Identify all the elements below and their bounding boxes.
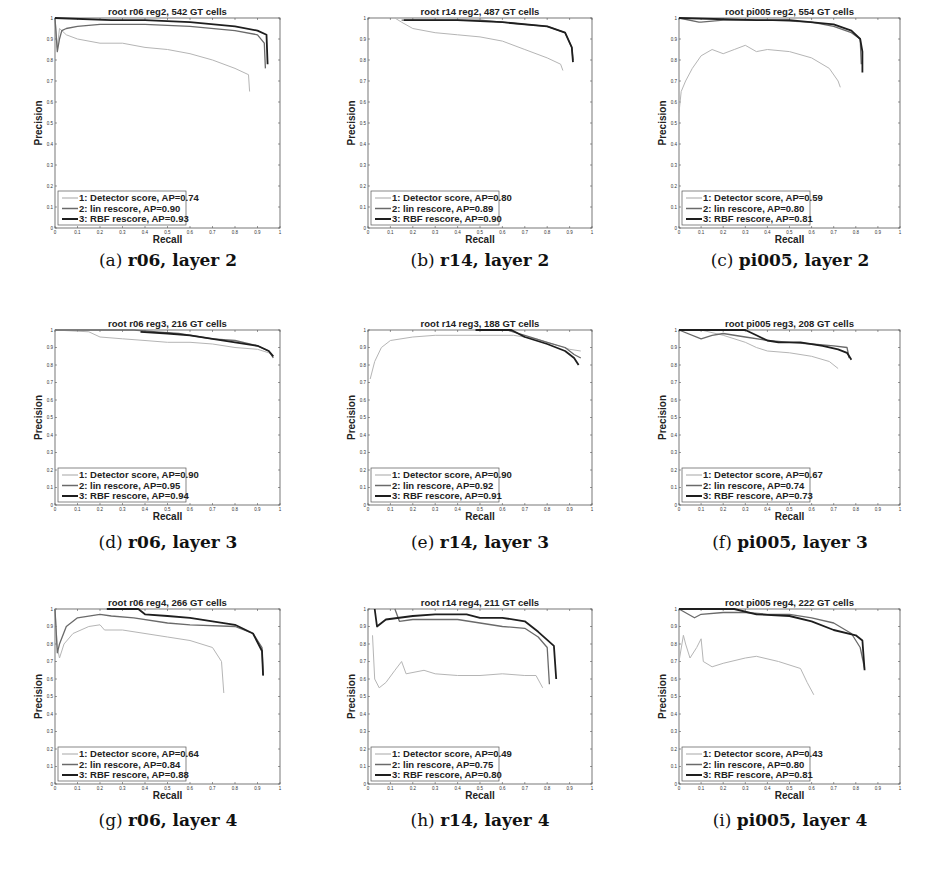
x-tick-label: 0.7	[831, 786, 838, 791]
legend-entry: 1: Detector score, AP=0.43	[703, 748, 823, 759]
legend-entry: 2: lin rescore, AP=0.80	[703, 759, 804, 770]
x-tick-label: 0.6	[808, 786, 815, 791]
caption-text: pi005, layer 4	[737, 810, 868, 830]
x-tick-label: 0.8	[853, 786, 860, 791]
subfigure-caption-i: (i) pi005, layer 4	[680, 810, 900, 830]
y-tick-label: 0.5	[671, 694, 678, 699]
x-tick-label: 0.2	[720, 786, 727, 791]
y-tick-label: 0.7	[671, 659, 678, 664]
x-tick-label: 0	[678, 786, 681, 791]
y-axis-label: Precision	[657, 674, 668, 719]
y-tick-label: 0.9	[671, 624, 678, 629]
x-tick-label: 0.3	[742, 786, 749, 791]
x-tick-label: 0.4	[764, 786, 771, 791]
y-tick-label: 1	[674, 607, 677, 612]
x-tick-label: 0.1	[698, 786, 705, 791]
y-tick-label: 0.4	[671, 712, 678, 717]
legend-entry: 3: RBF rescore, AP=0.81	[703, 769, 813, 780]
y-tick-label: 0.6	[671, 677, 678, 682]
y-tick-label: 0.1	[671, 764, 678, 769]
y-tick-label: 0.2	[671, 747, 678, 752]
caption-label: (i)	[713, 810, 732, 830]
y-tick-label: 0.8	[671, 642, 678, 647]
x-axis-label: Recall	[775, 790, 805, 801]
y-tick-label: 0.3	[671, 729, 678, 734]
chart-title: root pi005 reg4, 222 GT cells	[725, 597, 854, 608]
x-tick-label: 0.9	[875, 786, 882, 791]
x-tick-label: 1	[899, 786, 902, 791]
